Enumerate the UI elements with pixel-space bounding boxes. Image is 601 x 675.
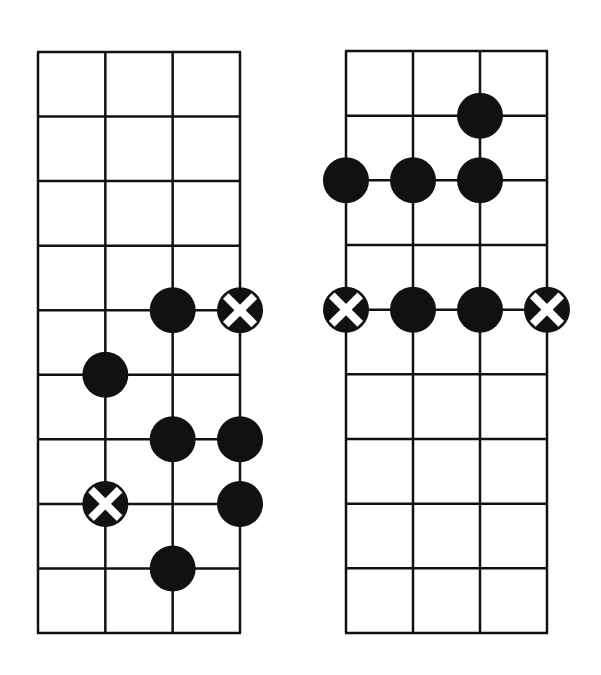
note-dot-icon [390, 157, 436, 203]
root-x-marker-icon [323, 287, 369, 333]
note-dot-icon [457, 93, 503, 139]
note-dot-icon [150, 545, 196, 591]
note-dot-icon [390, 287, 436, 333]
diagram-canvas [0, 0, 601, 675]
right-fretboard [323, 51, 570, 633]
note-dot-icon [323, 157, 369, 203]
root-x-marker-icon [82, 481, 128, 527]
root-x-marker-icon [217, 287, 263, 333]
note-dot-icon [457, 157, 503, 203]
fretboard-diagrams [0, 0, 601, 675]
note-dot-icon [150, 287, 196, 333]
note-dot-icon [217, 481, 263, 527]
note-dot-icon [457, 287, 503, 333]
left-fretboard [37, 52, 263, 633]
note-dot-icon [217, 416, 263, 462]
note-dot-icon [150, 416, 196, 462]
root-x-marker-icon [524, 287, 570, 333]
note-dot-icon [82, 352, 128, 398]
